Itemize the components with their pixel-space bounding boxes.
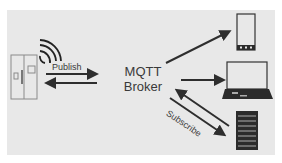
refrigerator-icon [11, 55, 37, 99]
mqtt-broker-label: MQTT Broker [118, 64, 168, 94]
publish-arrows [46, 74, 97, 83]
broker-line-2: Broker [118, 79, 168, 94]
publish-label: Publish [52, 62, 82, 72]
laptop-icon [222, 62, 273, 99]
broker-line-1: MQTT [118, 64, 168, 79]
wifi-signal-icon [40, 40, 61, 63]
arrow-to-phone [166, 32, 228, 63]
smartphone-icon [237, 14, 255, 50]
server-icon [236, 111, 258, 150]
